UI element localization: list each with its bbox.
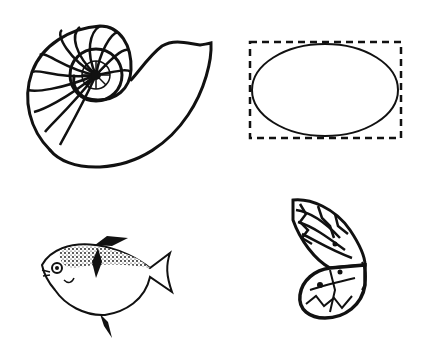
nautilus-shell-icon <box>20 18 220 173</box>
fish-figure: Fish <box>35 230 180 345</box>
butterfly-icon <box>285 195 370 325</box>
ellipse-icon <box>245 38 405 140</box>
nautilus-figure: Nautilus shell <box>20 18 220 173</box>
butterfly-figure: Butterfly wing <box>285 195 370 325</box>
fish-icon <box>35 230 180 345</box>
ellipse-figure: Ellipse in dashed rectangle <box>245 38 405 140</box>
